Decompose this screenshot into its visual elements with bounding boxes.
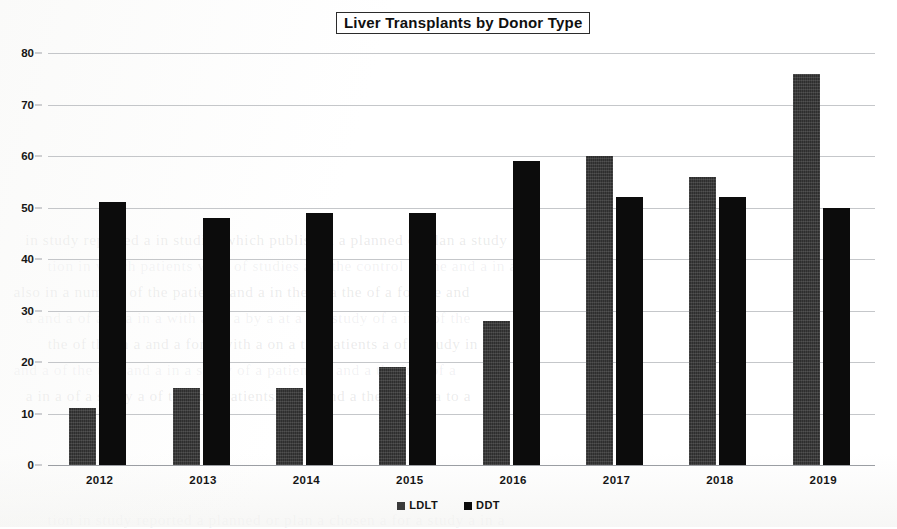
legend-swatch-icon-LDLT	[397, 502, 405, 510]
legend-label-LDLT: LDLT	[409, 500, 438, 511]
y-tick-label-80: 80	[0, 48, 34, 59]
y-tick-label-30: 30	[0, 305, 34, 316]
y-tick-label-70: 70	[0, 99, 34, 110]
y-tick-mark-50	[35, 207, 42, 208]
plot-area	[48, 53, 875, 465]
y-tick-mark-0	[35, 465, 42, 466]
bar-DDT-2017[interactable]	[616, 197, 643, 465]
bar-group-2013	[151, 53, 254, 465]
x-tick-label-2016: 2016	[473, 474, 553, 486]
bar-LDLT-2012[interactable]	[69, 408, 96, 465]
bar-LDLT-2015[interactable]	[379, 367, 406, 465]
bar-group-2014	[255, 53, 358, 465]
y-tick-label-20: 20	[0, 357, 34, 368]
chart-title-text: Liver Transplants by Donor Type	[344, 15, 582, 30]
gridline-0	[48, 465, 875, 466]
x-tick-label-2015: 2015	[370, 474, 450, 486]
y-axis: 01020304050607080	[0, 53, 42, 465]
x-axis: 20122013201420152016201720182019	[48, 468, 875, 490]
bar-group-2018	[668, 53, 771, 465]
y-tick-mark-60	[35, 156, 42, 157]
bar-group-2016	[462, 53, 565, 465]
bar-LDLT-2014[interactable]	[276, 388, 303, 465]
x-tick-label-2012: 2012	[60, 474, 140, 486]
x-tick-label-2018: 2018	[680, 474, 760, 486]
bar-DDT-2014[interactable]	[306, 213, 333, 465]
y-tick-label-60: 60	[0, 151, 34, 162]
legend-item-LDLT[interactable]: LDLT	[397, 500, 438, 511]
bar-LDLT-2019[interactable]	[793, 74, 820, 465]
chart-legend: LDLTDDT	[0, 500, 897, 511]
bar-DDT-2013[interactable]	[203, 218, 230, 465]
bar-DDT-2016[interactable]	[513, 161, 540, 465]
bar-DDT-2019[interactable]	[823, 208, 850, 466]
y-tick-label-40: 40	[0, 254, 34, 265]
x-tick-label-2013: 2013	[163, 474, 243, 486]
legend-label-DDT: DDT	[476, 500, 500, 511]
x-tick-label-2014: 2014	[266, 474, 346, 486]
legend-swatch-icon-DDT	[464, 502, 472, 510]
y-tick-mark-30	[35, 310, 42, 311]
bar-group-2019	[772, 53, 875, 465]
bar-LDLT-2018[interactable]	[689, 177, 716, 465]
y-tick-mark-20	[35, 362, 42, 363]
y-tick-mark-70	[35, 104, 42, 105]
y-tick-label-0: 0	[0, 460, 34, 471]
x-tick-label-2017: 2017	[577, 474, 657, 486]
bar-LDLT-2016[interactable]	[483, 321, 510, 465]
x-tick-label-2019: 2019	[783, 474, 863, 486]
y-tick-mark-80	[35, 53, 42, 54]
bar-DDT-2018[interactable]	[719, 197, 746, 465]
bar-group-2012	[48, 53, 151, 465]
bar-group-2017	[565, 53, 668, 465]
y-tick-label-50: 50	[0, 202, 34, 213]
bar-DDT-2012[interactable]	[99, 202, 126, 465]
y-tick-mark-10	[35, 413, 42, 414]
bar-group-2015	[358, 53, 461, 465]
bar-DDT-2015[interactable]	[409, 213, 436, 465]
bar-LDLT-2013[interactable]	[173, 388, 200, 465]
y-tick-mark-40	[35, 259, 42, 260]
chart-title: Liver Transplants by Donor Type	[336, 12, 590, 34]
bar-LDLT-2017[interactable]	[586, 156, 613, 465]
legend-item-DDT[interactable]: DDT	[464, 500, 500, 511]
y-tick-label-10: 10	[0, 408, 34, 419]
